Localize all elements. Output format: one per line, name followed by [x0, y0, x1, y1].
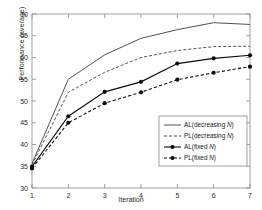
series-marker-2 — [66, 114, 70, 118]
y-tick-label: 60 — [20, 54, 28, 61]
figure: Performance (average) Iteration 30354045… — [0, 0, 262, 210]
x-tick-label: 2 — [66, 192, 70, 199]
x-tick-label: 3 — [103, 192, 107, 199]
series-marker-2 — [139, 80, 143, 84]
legend-label-1: PL(decreasing N) — [184, 132, 234, 140]
y-tick-label: 55 — [20, 76, 28, 83]
series-marker-3 — [248, 65, 252, 69]
x-tick-label: 4 — [139, 192, 143, 199]
series-marker-2 — [175, 61, 179, 65]
x-tick-label: 5 — [175, 192, 179, 199]
y-tick-label: 45 — [20, 119, 28, 126]
series-marker-2 — [103, 90, 107, 94]
series-marker-3 — [139, 90, 143, 94]
series-marker-3 — [212, 71, 216, 75]
y-tick-label: 70 — [20, 11, 28, 18]
series-marker-3 — [66, 121, 70, 125]
legend-label-3: PL(fixed N) — [184, 154, 216, 162]
y-tick-label: 30 — [20, 185, 28, 192]
series-marker-3 — [30, 166, 34, 170]
series-marker-2 — [212, 56, 216, 60]
legend-swatch-marker-3 — [170, 156, 174, 160]
legend-swatch-marker-2 — [170, 145, 174, 149]
legend-label-0: AL(decreasing N) — [184, 121, 234, 129]
y-tick-label: 35 — [20, 163, 28, 170]
y-tick-label: 50 — [20, 98, 28, 105]
series-marker-3 — [103, 101, 107, 105]
line-chart-canvas: 3035404550556065701234567AL(decreasing N… — [0, 0, 262, 210]
y-tick-label: 40 — [20, 141, 28, 148]
legend-label-2: AL(fixed N) — [184, 143, 216, 151]
series-marker-3 — [175, 78, 179, 82]
x-tick-label: 1 — [30, 192, 34, 199]
x-tick-label: 7 — [248, 192, 252, 199]
y-tick-label: 65 — [20, 32, 28, 39]
x-tick-label: 6 — [212, 192, 216, 199]
series-marker-2 — [248, 53, 252, 57]
